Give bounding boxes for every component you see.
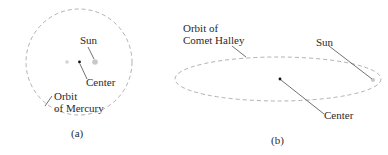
halley-orbit: [175, 57, 381, 101]
sun-label-b: Sun: [316, 36, 333, 48]
center-label-b: Center: [324, 109, 353, 121]
center-label-a: Center: [86, 76, 115, 88]
empty-focus-dot: [65, 60, 69, 64]
center-dot-a: [78, 61, 81, 64]
panel-a: [26, 9, 132, 115]
orbit-label-a-line2: of Mercury: [54, 102, 104, 114]
orbit-label-b-line1: Orbit of: [183, 22, 218, 34]
center-dot-b: [279, 78, 282, 81]
sun-dot-a: [92, 59, 98, 65]
orbit-label-a-line1: Orbit: [54, 90, 77, 102]
caption-b: (b): [271, 134, 284, 146]
orbit-leader-b: [232, 46, 246, 57]
sun-leader-b: [329, 46, 372, 79]
center-leader-b: [281, 80, 324, 114]
sun-label-a: Sun: [80, 34, 97, 46]
panel-b: [175, 46, 381, 114]
orbit-label-b-line2: Comet Halley: [183, 34, 244, 46]
sun-leader-a: [88, 47, 94, 59]
caption-a: (a): [71, 127, 83, 139]
orbit-leader-a: [45, 96, 52, 106]
